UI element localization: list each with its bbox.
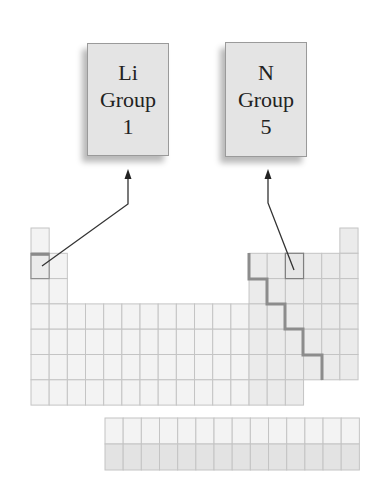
element-cell bbox=[231, 304, 249, 329]
lanthanide-cell bbox=[196, 418, 214, 444]
element-cell bbox=[86, 304, 104, 329]
lanthanide-cell bbox=[341, 418, 359, 444]
element-cell bbox=[49, 253, 67, 278]
lithium-group-box: Li Group 1 bbox=[87, 43, 169, 156]
lithium-symbol: Li bbox=[118, 59, 138, 86]
element-cell bbox=[322, 279, 340, 304]
element-cell bbox=[267, 329, 285, 354]
actinide-cell bbox=[323, 444, 341, 470]
lithium-cell bbox=[31, 253, 49, 278]
element-cell bbox=[340, 253, 358, 278]
element-cell bbox=[67, 355, 85, 380]
element-cell bbox=[67, 304, 85, 329]
element-cell bbox=[249, 355, 267, 380]
lanthanide-cell bbox=[214, 418, 232, 444]
element-cell bbox=[67, 380, 85, 405]
lanthanide-cell bbox=[105, 418, 123, 444]
lanthanide-cell bbox=[250, 418, 268, 444]
element-cell bbox=[267, 279, 285, 304]
lanthanide-cell bbox=[232, 418, 250, 444]
element-cell bbox=[104, 304, 122, 329]
element-cell bbox=[86, 380, 104, 405]
arrowhead-icon bbox=[265, 169, 272, 179]
element-cell bbox=[104, 380, 122, 405]
element-cell bbox=[158, 355, 176, 380]
lithium-group-number: 1 bbox=[123, 113, 134, 140]
actinide-cell bbox=[178, 444, 196, 470]
element-cell bbox=[340, 329, 358, 354]
element-cell bbox=[231, 329, 249, 354]
arrowhead-icon bbox=[125, 169, 132, 179]
element-cell bbox=[249, 380, 267, 405]
element-cell bbox=[213, 380, 231, 405]
element-cell bbox=[249, 329, 267, 354]
actinide-cell bbox=[196, 444, 214, 470]
element-cell bbox=[31, 304, 49, 329]
actinide-cell bbox=[123, 444, 141, 470]
actinide-cell bbox=[214, 444, 232, 470]
lanthanide-cell bbox=[178, 418, 196, 444]
element-cell bbox=[340, 279, 358, 304]
element-cell bbox=[322, 329, 340, 354]
element-cell bbox=[176, 329, 194, 354]
element-cell bbox=[285, 329, 303, 354]
element-cell bbox=[31, 279, 49, 304]
element-cell bbox=[285, 380, 303, 405]
element-cell bbox=[231, 380, 249, 405]
element-cell bbox=[49, 380, 67, 405]
element-cell bbox=[249, 253, 267, 278]
element-cell bbox=[140, 304, 158, 329]
element-cell bbox=[49, 279, 67, 304]
actinide-cell bbox=[305, 444, 323, 470]
element-cell bbox=[122, 304, 140, 329]
element-cell bbox=[285, 355, 303, 380]
element-cell bbox=[176, 355, 194, 380]
element-cell bbox=[195, 355, 213, 380]
element-cell bbox=[158, 380, 176, 405]
element-cell bbox=[104, 355, 122, 380]
element-cell bbox=[140, 355, 158, 380]
nitrogen-group-box: N Group 5 bbox=[225, 42, 307, 157]
nitrogen-group-label: Group bbox=[238, 86, 294, 113]
actinide-cell bbox=[269, 444, 287, 470]
element-cell bbox=[340, 228, 358, 253]
periodic-table-diagram bbox=[0, 0, 384, 482]
actinide-cell bbox=[160, 444, 178, 470]
element-cell bbox=[195, 380, 213, 405]
element-cell bbox=[49, 304, 67, 329]
lanthanide-cell bbox=[287, 418, 305, 444]
actinide-cell bbox=[141, 444, 159, 470]
lanthanide-cell bbox=[323, 418, 341, 444]
element-cell bbox=[304, 355, 322, 380]
element-cell bbox=[140, 380, 158, 405]
lithium-group-label: Group bbox=[100, 86, 156, 113]
element-cell bbox=[49, 355, 67, 380]
element-cell bbox=[231, 355, 249, 380]
element-cell bbox=[31, 228, 49, 253]
nitrogen-symbol: N bbox=[258, 59, 274, 86]
periodic-table-grid bbox=[31, 228, 358, 405]
element-cell bbox=[304, 279, 322, 304]
lanthanide-cell bbox=[269, 418, 287, 444]
element-cell bbox=[213, 355, 231, 380]
element-cell bbox=[267, 355, 285, 380]
element-cell bbox=[304, 329, 322, 354]
lanthanide-cell bbox=[141, 418, 159, 444]
actinide-cell bbox=[105, 444, 123, 470]
element-cell bbox=[249, 304, 267, 329]
element-cell bbox=[213, 329, 231, 354]
lanthanide-cell bbox=[123, 418, 141, 444]
element-cell bbox=[140, 329, 158, 354]
element-cell bbox=[195, 304, 213, 329]
element-cell bbox=[49, 329, 67, 354]
element-cell bbox=[195, 329, 213, 354]
f-block-rows bbox=[105, 418, 359, 470]
actinide-cell bbox=[250, 444, 268, 470]
nitrogen-cell bbox=[285, 253, 303, 278]
element-cell bbox=[340, 355, 358, 380]
element-cell bbox=[304, 253, 322, 278]
element-cell bbox=[213, 304, 231, 329]
element-cell bbox=[158, 304, 176, 329]
nitrogen-group-number: 5 bbox=[261, 113, 272, 140]
element-cell bbox=[122, 355, 140, 380]
